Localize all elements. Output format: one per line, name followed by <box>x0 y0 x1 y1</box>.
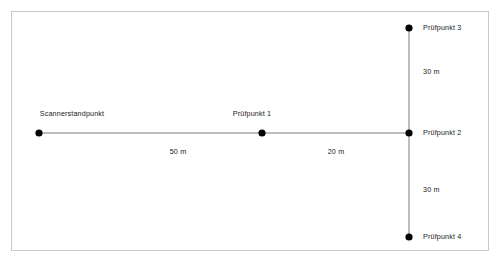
point-pruefpunkt2[interactable] <box>405 129 412 136</box>
distance-label-p1-to-p2: 20 m <box>328 148 345 155</box>
label-pruefpunkt2: Prüfpunkt 2 <box>423 129 461 136</box>
diagram-page: Scannerstandpunkt Prüfpunkt 1 Prüfpunkt … <box>0 0 501 266</box>
label-pruefpunkt4: Prüfpunkt 4 <box>423 233 461 240</box>
point-pruefpunkt4[interactable] <box>405 233 412 240</box>
label-scanner: Scannerstandpunkt <box>40 110 105 117</box>
label-pruefpunkt3: Prüfpunkt 3 <box>423 24 461 31</box>
distance-label-scanner-to-p1: 50 m <box>170 148 187 155</box>
label-pruefpunkt1: Prüfpunkt 1 <box>233 110 271 117</box>
point-scanner[interactable] <box>35 129 42 136</box>
distance-label-p3-to-p2: 30 m <box>423 68 440 75</box>
distance-label-p2-to-p4: 30 m <box>423 186 440 193</box>
point-pruefpunkt1[interactable] <box>258 129 265 136</box>
point-pruefpunkt3[interactable] <box>405 24 412 31</box>
